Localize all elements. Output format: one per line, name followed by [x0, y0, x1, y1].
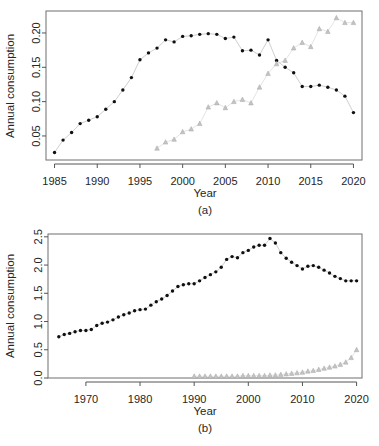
- data-point-circle: [279, 251, 282, 254]
- data-point-circle: [326, 86, 329, 89]
- data-point-circle: [352, 111, 355, 114]
- data-point-circle: [96, 115, 99, 118]
- plot-box: [46, 11, 362, 160]
- data-point-circle: [317, 266, 320, 269]
- data-point-circle: [172, 40, 175, 43]
- data-point-circle: [73, 330, 76, 333]
- data-point-circle: [301, 267, 304, 270]
- data-point-circle: [214, 270, 217, 273]
- data-point-circle: [198, 33, 201, 36]
- y-tick-label: 0.10: [30, 91, 42, 112]
- data-point-circle: [128, 311, 131, 314]
- panel-a-svg: 0.050.100.150.20198519901995200020052010…: [0, 0, 379, 220]
- data-point-circle: [192, 282, 195, 285]
- x-tick-label: 1995: [128, 175, 152, 187]
- data-point-circle: [344, 279, 347, 282]
- data-point-circle: [343, 94, 346, 97]
- panel-a-plot: 0.050.100.150.20198519901995200020052010…: [4, 11, 366, 216]
- data-point-circle: [257, 244, 260, 247]
- data-point-circle: [292, 71, 295, 74]
- data-point-circle: [301, 85, 304, 88]
- data-point-circle: [187, 282, 190, 285]
- data-point-circle: [117, 315, 120, 318]
- y-tick-label: 1.0: [32, 314, 44, 329]
- data-point-circle: [209, 273, 212, 276]
- data-point-circle: [87, 118, 90, 121]
- y-tick-label: 0.5: [32, 342, 44, 357]
- data-point-triangle: [338, 362, 343, 366]
- data-point-circle: [252, 245, 255, 248]
- series-connector: [157, 18, 353, 148]
- data-point-circle: [268, 237, 271, 240]
- x-tick-label: 2010: [256, 175, 280, 187]
- data-point-triangle: [308, 44, 313, 48]
- data-point-circle: [164, 38, 167, 41]
- data-point-circle: [70, 131, 73, 134]
- data-point-circle: [333, 275, 336, 278]
- data-point-circle: [68, 332, 71, 335]
- data-point-circle: [53, 151, 56, 154]
- data-point-circle: [155, 46, 158, 49]
- x-tick-label: 1985: [42, 175, 66, 187]
- panel-caption: (a): [198, 204, 212, 216]
- data-point-circle: [335, 88, 338, 91]
- data-point-triangle: [223, 105, 228, 109]
- series-connector: [55, 34, 354, 153]
- data-point-circle: [84, 329, 87, 332]
- data-point-circle: [349, 279, 352, 282]
- x-tick-label: 1990: [85, 175, 109, 187]
- data-point-circle: [322, 268, 325, 271]
- y-axis-title: Annual consumption: [4, 34, 16, 138]
- data-point-circle: [290, 261, 293, 264]
- data-point-circle: [241, 49, 244, 52]
- x-tick-label: 2020: [341, 175, 365, 187]
- x-tick-label: 2000: [170, 175, 194, 187]
- data-point-circle: [130, 76, 133, 79]
- data-point-triangle: [343, 360, 348, 364]
- y-tick-label: 0.0: [32, 370, 44, 385]
- data-point-circle: [236, 256, 239, 259]
- data-point-circle: [224, 37, 227, 40]
- data-point-circle: [203, 276, 206, 279]
- plot-box: [48, 234, 362, 378]
- data-point-triangle: [291, 46, 296, 50]
- data-point-circle: [207, 32, 210, 35]
- data-point-circle: [182, 283, 185, 286]
- data-point-circle: [263, 244, 266, 247]
- data-point-circle: [339, 277, 342, 280]
- data-point-circle: [232, 35, 235, 38]
- data-point-circle: [189, 34, 192, 37]
- figure-container: 0.050.100.150.20198519901995200020052010…: [0, 0, 379, 446]
- y-tick-label: 0.05: [30, 125, 42, 146]
- data-point-circle: [318, 83, 321, 86]
- y-axis-title: Annual consumption: [4, 254, 16, 358]
- data-point-circle: [225, 258, 228, 261]
- y-tick-label: 1.5: [32, 286, 44, 301]
- x-axis-title: Year: [193, 405, 216, 417]
- series-connector: [59, 239, 357, 337]
- data-point-triangle: [354, 347, 359, 351]
- data-point-circle: [160, 297, 163, 300]
- data-point-triangle: [189, 127, 194, 131]
- data-point-circle: [247, 249, 250, 252]
- y-tick-label: 0.20: [30, 22, 42, 43]
- data-point-triangle: [240, 97, 245, 101]
- y-tick-label: 0.15: [30, 57, 42, 78]
- data-point-circle: [230, 255, 233, 258]
- data-point-circle: [104, 107, 107, 110]
- data-point-circle: [155, 300, 158, 303]
- data-point-circle: [63, 333, 66, 336]
- data-point-circle: [312, 264, 315, 267]
- data-point-triangle: [257, 85, 262, 89]
- data-point-circle: [113, 100, 116, 103]
- data-point-circle: [133, 309, 136, 312]
- data-point-circle: [57, 335, 60, 338]
- y-tick-label: 2.0: [32, 257, 44, 272]
- x-tick-label: 2010: [290, 393, 314, 405]
- data-point-triangle: [317, 26, 322, 30]
- data-point-triangle: [206, 105, 211, 109]
- data-point-circle: [215, 33, 218, 36]
- data-point-circle: [241, 251, 244, 254]
- data-point-triangle: [300, 40, 305, 44]
- data-point-circle: [249, 48, 252, 51]
